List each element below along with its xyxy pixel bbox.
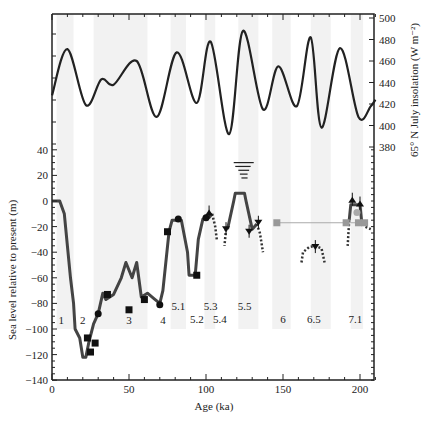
square-marker [84, 334, 91, 341]
y-tick-label: −100 [25, 323, 48, 335]
y-tick-label: 0 [43, 195, 49, 207]
grey-square-marker [273, 219, 280, 226]
y-tick-label: −40 [31, 246, 49, 258]
circle-marker [175, 215, 182, 222]
y-tick-label: 40 [37, 144, 49, 156]
stage-label: 5.1 [171, 300, 185, 312]
y-right-tick-label: 440 [379, 77, 396, 89]
x-tick-label: 0 [49, 383, 55, 395]
stage-label: 4 [160, 314, 166, 326]
square-marker [104, 291, 111, 298]
shaded-band [351, 14, 363, 329]
square-marker [141, 296, 148, 303]
y-right-tick-label: 400 [379, 120, 396, 132]
shaded-band [238, 14, 258, 329]
x-tick-label: 50 [124, 383, 136, 395]
y-tick-label: −120 [25, 349, 48, 361]
circle-marker [156, 301, 163, 308]
y-right-tick-label: 460 [379, 55, 396, 67]
y-tick-label: 20 [37, 169, 49, 181]
grey-circle-marker [353, 209, 360, 216]
y-axis-label: Sea level relative to present (m) [6, 200, 19, 341]
stage-label: 1 [58, 314, 64, 326]
square-marker [87, 349, 94, 356]
stage-label: 7.1 [349, 313, 363, 325]
stage-label: 5.4 [213, 313, 227, 325]
y-right-tick-label: 500 [379, 12, 396, 24]
stage-label: 6.5 [307, 313, 321, 325]
y-tick-label: −140 [25, 374, 48, 386]
stage-label: 6 [280, 313, 286, 325]
shaded-band [204, 14, 215, 329]
grey-square-marker [361, 219, 368, 226]
square-marker [126, 306, 133, 313]
y-tick-label: −60 [31, 272, 49, 284]
stage-label: 5.2 [190, 313, 204, 325]
y-right-tick-label: 420 [379, 98, 396, 110]
grey-square-marker [355, 219, 362, 226]
stage-label: 5.5 [238, 300, 252, 312]
x-tick-label: 100 [198, 383, 215, 395]
y-axis-right-label: 65° N July insolation (W m⁻²) [408, 23, 421, 157]
chart-svg: 050100150200−140−120−100−80−60−40−200204… [0, 0, 429, 422]
square-marker [164, 228, 171, 235]
circle-marker [95, 310, 102, 317]
x-tick-label: 200 [352, 383, 369, 395]
stage-label: 5.3 [204, 300, 218, 312]
shaded-bands [57, 14, 363, 329]
stage-label: 3 [126, 314, 132, 326]
y-right-tick-label: 480 [379, 34, 396, 46]
x-axis-label: Age (ka) [195, 400, 234, 413]
sea-level-insolation-chart: 050100150200−140−120−100−80−60−40−200204… [0, 0, 429, 422]
y-tick-label: −20 [31, 221, 49, 233]
grey-square-marker [343, 219, 350, 226]
shaded-band [272, 14, 290, 329]
y-right-tick-label: 380 [379, 141, 396, 153]
stage-label: 2 [80, 314, 86, 326]
x-tick-label: 150 [275, 383, 292, 395]
y-tick-label: −80 [31, 297, 49, 309]
square-marker [92, 340, 99, 347]
square-marker [193, 272, 200, 279]
